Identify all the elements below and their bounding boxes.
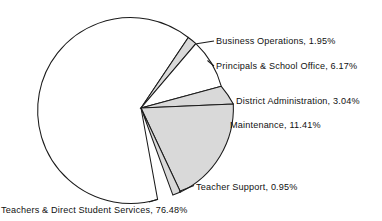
pie-slices — [38, 17, 234, 203]
pie-label-teacher-support: Teacher Support, 0.95% — [196, 182, 298, 193]
pie-label-business-operations: Business Operations, 1.95% — [216, 36, 335, 47]
pie-label-district-administration: District Administration, 3.04% — [236, 96, 360, 107]
pie-chart: Business Operations, 1.95% Principals & … — [0, 0, 382, 221]
pie-slice-maintenance — [141, 104, 233, 192]
pie-chart-canvas — [0, 0, 382, 221]
leader-line-business-operations — [197, 41, 214, 44]
pie-label-teachers-direct-student-services: Teachers & Direct Student Services, 76.4… — [1, 205, 188, 216]
pie-label-principals-school-office: Principals & School Office, 6.17% — [216, 61, 357, 72]
pie-label-maintenance: Maintenance, 11.41% — [230, 120, 321, 131]
